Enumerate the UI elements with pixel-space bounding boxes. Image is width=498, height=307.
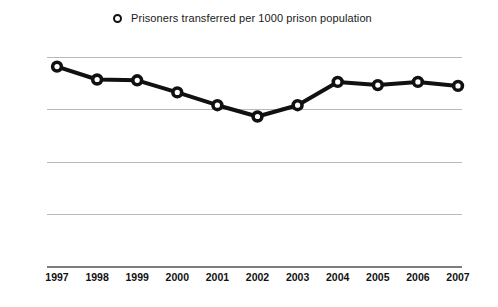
x-axis-tick-label: 2000 [154,271,200,283]
plot-area: 03.256.59.7513 1997199819992000200120022… [47,57,462,266]
x-axis-tick-label: 1999 [114,271,160,283]
ring-marker-icon [113,14,122,23]
x-axis-tick-label: 1997 [34,271,80,283]
x-axis-tick-label: 2007 [435,271,481,283]
data-point-marker [213,101,222,110]
x-axis-tick-label: 2002 [235,271,281,283]
data-series-layer [47,57,462,266]
series-line [57,67,458,117]
x-axis-tick-label: 2001 [194,271,240,283]
data-point-marker [133,76,142,85]
x-axis-tick-label: 2003 [275,271,321,283]
x-axis-baseline [47,266,462,268]
data-point-marker [333,78,342,87]
data-point-marker [373,81,382,90]
chart-container: Prisoners transferred per 1000 prison po… [0,0,498,307]
data-point-marker [293,101,302,110]
data-point-marker [53,62,62,71]
data-point-marker [173,88,182,97]
data-point-marker [454,82,463,91]
x-axis-tick-label: 2004 [315,271,361,283]
x-axis-tick-label: 2005 [355,271,401,283]
chart-legend: Prisoners transferred per 1000 prison po… [113,9,372,27]
data-point-marker [414,78,423,87]
legend-label-series-1: Prisoners transferred per 1000 prison po… [131,12,372,24]
data-point-marker [93,75,102,84]
x-axis-tick-label: 2006 [395,271,441,283]
x-axis-tick-label: 1998 [74,271,120,283]
data-point-marker [253,112,262,121]
